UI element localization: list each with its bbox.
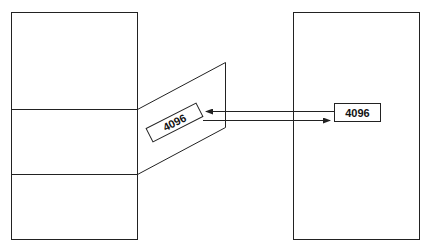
mapped-segment: 4096 bbox=[138, 63, 226, 175]
right-block-outline bbox=[294, 13, 420, 240]
right-label: 4096 bbox=[335, 104, 381, 122]
left-block-outline bbox=[12, 13, 138, 240]
diagram-canvas: 4096 4096 bbox=[0, 0, 428, 249]
left-memory-block bbox=[12, 13, 138, 240]
right-label-text: 4096 bbox=[345, 107, 369, 119]
right-memory-block bbox=[294, 13, 420, 240]
